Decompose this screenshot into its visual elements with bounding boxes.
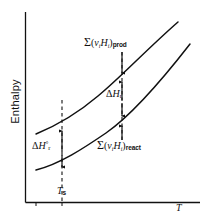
temperature-axis-label: T (176, 203, 182, 213)
h-glyph: H (38, 140, 45, 151)
enthalpy-vs-temperature-figure: Enthalpy T Σ(νiHi)prod Σ(νiHi)react ΔHr … (0, 0, 202, 224)
enthalpy-axis-label: Enthalpy (10, 64, 21, 140)
sigma-glyph: Σ (84, 35, 91, 49)
h-glyph: H (100, 37, 107, 48)
products-enthalpy-label: Σ(νiHi)prod (84, 36, 127, 49)
delta-h0r-label: ΔH°r (32, 141, 50, 152)
prod-subscript: prod (113, 41, 127, 48)
s-subscript: s (63, 189, 67, 196)
plot-canvas (0, 0, 202, 224)
sigma-glyph: Σ (97, 138, 104, 152)
h-glyph: H (112, 88, 119, 99)
react-subscript: react (126, 144, 141, 151)
reactants-enthalpy-label: Σ(νiHi)react (97, 139, 141, 152)
r-subscript: r (120, 92, 122, 99)
ts-tick-label: Ts (57, 186, 66, 197)
r-subscript: r (48, 144, 50, 151)
h-glyph: H (113, 140, 120, 151)
delta-hr-label: ΔHr (106, 89, 122, 100)
